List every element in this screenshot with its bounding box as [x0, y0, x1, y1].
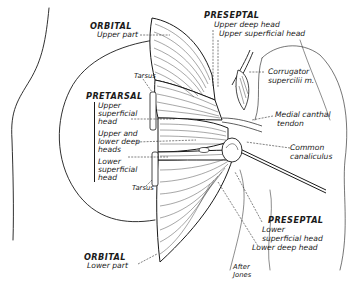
pretarsal-deep-3: heads [98, 146, 140, 154]
pretarsal-title: PRETARSAL [86, 92, 143, 100]
orbital-upper-sub: Upper part [97, 31, 138, 39]
preseptal-upper-deep: Upper deep head [214, 21, 280, 29]
medial-canthal-line-2: tendon [275, 119, 331, 128]
corrugator-line-2: supercilii m. [268, 76, 314, 85]
medial-canthal-label: Medial canthal tendon [275, 110, 331, 128]
credit-line-1: After [233, 263, 251, 271]
credit-line-2: Jones [233, 271, 251, 279]
medial-canthal-line-1: Medial canthal [275, 110, 331, 119]
anatomy-diagram: ORBITAL Upper part Tarsus PRETARSAL Uppe… [0, 0, 358, 282]
pretarsal-group: Upper superficial head Upper and lower d… [94, 102, 140, 182]
preseptal-lower-title: PRESEPTAL [268, 216, 324, 224]
pretarsal-lower-superficial-3: head [98, 174, 140, 182]
orbital-upper-title: ORBITAL [90, 22, 132, 30]
preseptal-upper-superficial: Upper superficial head [219, 30, 305, 38]
preseptal-lower-sup-line-2: superficial head [262, 235, 323, 244]
canaliculus-label: Common canaliculus [290, 143, 332, 161]
canaliculus-line-2: canaliculus [290, 152, 332, 161]
tarsus-lower-label: Tarsus [132, 185, 154, 192]
preseptal-lower-superficial: Lower superficial head [262, 226, 323, 243]
canaliculus-line-1: Common [290, 143, 332, 152]
preseptal-upper-title: PRESEPTAL [204, 11, 260, 19]
preseptal-lower-deep: Lower deep head [252, 244, 318, 252]
orbital-lower-title: ORBITAL [84, 253, 126, 261]
corrugator-label: Corrugator supercilii m. [268, 67, 314, 85]
corrugator-line-1: Corrugator [268, 67, 314, 76]
pretarsal-upper-superficial-3: head [98, 118, 140, 126]
tarsus-upper-label: Tarsus [134, 73, 156, 80]
orbital-lower-sub: Lower part [87, 262, 128, 270]
credit-label: After Jones [233, 263, 251, 279]
